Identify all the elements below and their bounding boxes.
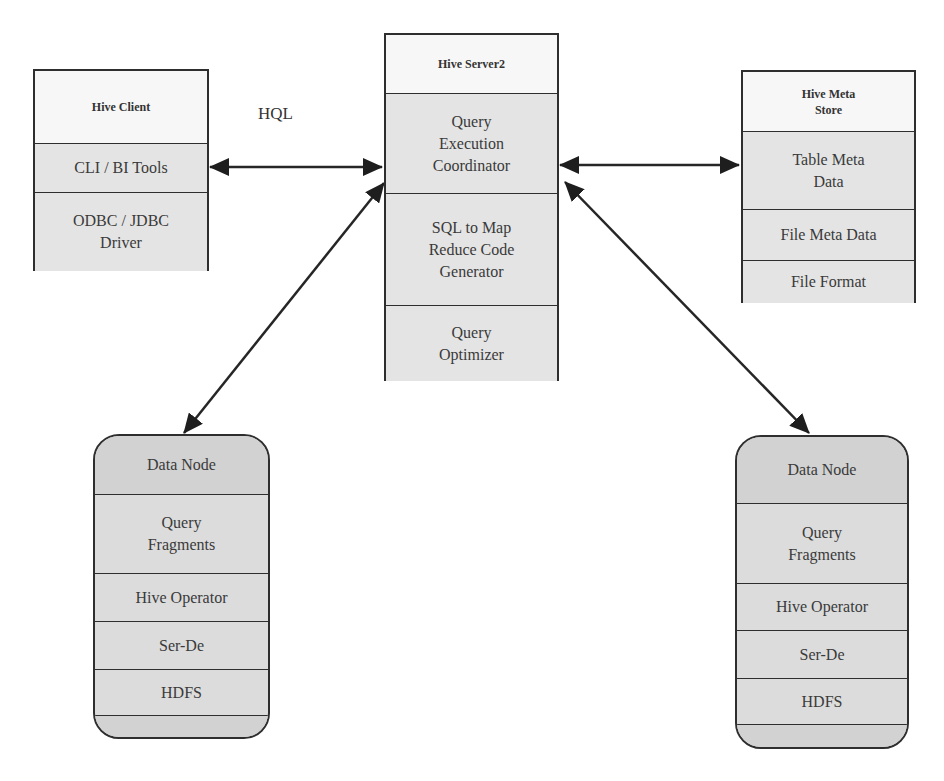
file-format: File Format <box>743 260 914 303</box>
data-node-left-footer <box>95 715 268 739</box>
query-optimizer: Query Optimizer <box>386 305 557 381</box>
odbc-jdbc-driver: ODBC / JDBC Driver <box>35 192 207 271</box>
hive-client-box: Hive Client CLI / BI Tools ODBC / JDBC D… <box>33 69 209 271</box>
arrow-server-datanode-left <box>184 183 384 433</box>
hdfs: HDFS <box>737 678 907 724</box>
ser-de: Ser-De <box>737 630 907 678</box>
ser-de: Ser-De <box>95 621 268 669</box>
hive-operator: Hive Operator <box>737 583 907 630</box>
file-meta-data: File Meta Data <box>743 209 914 260</box>
hql-label: HQL <box>258 104 293 124</box>
query-fragments: Query Fragments <box>95 494 268 573</box>
query-fragments: Query Fragments <box>737 503 907 583</box>
data-node-right-footer <box>737 724 907 749</box>
data-node-left-title: Data Node <box>95 436 268 494</box>
sql-to-mapreduce-generator: SQL to Map Reduce Code Generator <box>386 193 557 305</box>
data-node-right: Data Node Query Fragments Hive Operator … <box>735 435 909 749</box>
cli-bi-tools: CLI / BI Tools <box>35 143 207 192</box>
data-node-left: Data Node Query Fragments Hive Operator … <box>93 434 270 739</box>
data-node-right-title: Data Node <box>737 437 907 503</box>
hive-metastore-box: Hive Meta Store Table Meta Data File Met… <box>741 70 916 303</box>
hive-metastore-title: Hive Meta Store <box>743 72 914 131</box>
table-meta-data: Table Meta Data <box>743 131 914 209</box>
hdfs: HDFS <box>95 669 268 715</box>
hive-server2-title: Hive Server2 <box>386 35 557 93</box>
hive-client-title: Hive Client <box>35 71 207 143</box>
query-execution-coordinator: Query Execution Coordinator <box>386 93 557 193</box>
hive-operator: Hive Operator <box>95 573 268 621</box>
hive-server2-box: Hive Server2 Query Execution Coordinator… <box>384 33 559 381</box>
